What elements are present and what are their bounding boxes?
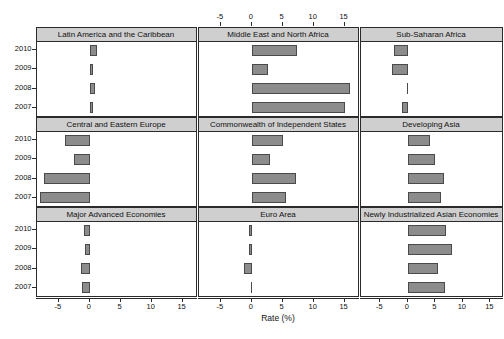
x-tick-label: 15 (333, 303, 355, 311)
x-tick-label: 15 (171, 303, 193, 311)
x-tick-mark (313, 22, 314, 26)
panel-title: Major Advanced Economies (37, 208, 196, 222)
bar-2010 (252, 135, 283, 146)
x-tick-label: 0 (240, 303, 262, 311)
y-tick-label-2007: 2007 (6, 283, 32, 291)
x-axis-title: Rate (%) (198, 313, 359, 323)
bar-2007 (402, 102, 408, 113)
y-tick-label-2008: 2008 (6, 264, 32, 272)
x-tick-mark (151, 298, 152, 302)
x-tick-mark (344, 22, 345, 26)
y-tick-mark (32, 248, 36, 249)
x-tick-label: 15 (333, 13, 355, 21)
x-tick-label: -5 (209, 13, 231, 21)
x-tick-label: 10 (302, 303, 324, 311)
bar-2009 (74, 154, 89, 165)
panel-plot-area (37, 221, 196, 296)
bar-2007 (251, 282, 252, 293)
bar-2009 (252, 64, 268, 75)
y-tick-label-2008: 2008 (6, 84, 32, 92)
bar-2009 (249, 244, 252, 255)
bar-2008 (81, 263, 90, 274)
x-tick-mark (344, 298, 345, 302)
y-tick-label-2009: 2009 (6, 64, 32, 72)
panel-title: Latin America and the Caribbean (37, 28, 196, 42)
x-tick-label: -5 (209, 303, 231, 311)
panel-developing-asia: Developing Asia (360, 117, 503, 207)
panel-title: Developing Asia (361, 118, 502, 132)
y-tick-label-2010: 2010 (6, 45, 32, 53)
y-tick-label-2010: 2010 (6, 225, 32, 233)
bar-2009 (408, 244, 452, 255)
x-tick-mark (220, 22, 221, 26)
x-tick-mark (58, 298, 59, 302)
y-tick-label-2009: 2009 (6, 154, 32, 162)
x-tick-mark (462, 298, 463, 302)
x-tick-mark (313, 298, 314, 302)
x-tick-label: 0 (396, 303, 418, 311)
bar-2008 (252, 83, 350, 94)
bar-2007 (252, 192, 287, 203)
x-tick-label: -5 (47, 303, 69, 311)
x-tick-label: 5 (271, 303, 293, 311)
x-tick-label: 0 (240, 13, 262, 21)
bar-2008 (90, 83, 96, 94)
y-tick-label-2007: 2007 (6, 193, 32, 201)
x-tick-mark (220, 298, 221, 302)
panel-plot-area (199, 221, 358, 296)
x-tick-label: 10 (140, 303, 162, 311)
y-tick-label-2010: 2010 (6, 135, 32, 143)
y-tick-label-2008: 2008 (6, 174, 32, 182)
y-tick-label-2009: 2009 (6, 244, 32, 252)
y-tick-mark (32, 158, 36, 159)
bar-2009 (392, 64, 407, 75)
bar-2007 (252, 102, 346, 113)
panel-plot-area (37, 131, 196, 206)
y-tick-mark (32, 268, 36, 269)
x-tick-label: 15 (478, 303, 500, 311)
panel-middle-east-and-north-africa: Middle East and North Africa (198, 27, 359, 117)
bar-2010 (394, 45, 408, 56)
y-tick-mark (32, 229, 36, 230)
y-tick-label-2007: 2007 (6, 103, 32, 111)
x-tick-label: 5 (109, 303, 131, 311)
panel-title: Central and Eastern Europe (37, 118, 196, 132)
bar-2007 (40, 192, 90, 203)
bar-2009 (252, 154, 271, 165)
bar-2007 (82, 282, 89, 293)
x-tick-mark (120, 298, 121, 302)
y-tick-mark (32, 287, 36, 288)
x-tick-mark (407, 298, 408, 302)
bar-2010 (408, 225, 447, 236)
x-axis-line (360, 298, 503, 299)
x-tick-mark (251, 298, 252, 302)
bar-2010 (84, 225, 90, 236)
x-tick-mark (251, 22, 252, 26)
bar-2008 (408, 173, 444, 184)
x-tick-mark (282, 298, 283, 302)
panel-latin-america-and-the-caribbean: Latin America and the Caribbean (36, 27, 197, 117)
panel-plot-area (199, 131, 358, 206)
panel-title: Newly Industrialized Asian Economies (361, 208, 502, 222)
panel-plot-area (361, 221, 502, 296)
bar-2010 (65, 135, 90, 146)
bar-2010 (90, 45, 97, 56)
x-tick-mark (182, 298, 183, 302)
panel-title: Middle East and North Africa (199, 28, 358, 42)
y-tick-mark (32, 68, 36, 69)
bar-2007 (90, 102, 94, 113)
x-tick-mark (489, 298, 490, 302)
y-tick-mark (32, 88, 36, 89)
bar-2010 (408, 135, 430, 146)
panel-central-and-eastern-europe: Central and Eastern Europe (36, 117, 197, 207)
panel-commonwealth-of-independent-states: Commonwealth of Independent States (198, 117, 359, 207)
panel-title: Euro Area (199, 208, 358, 222)
panel-major-advanced-economies: Major Advanced Economies (36, 207, 197, 297)
x-tick-mark (282, 22, 283, 26)
x-axis-line (36, 298, 197, 299)
panel-newly-industrialized-asian-economies: Newly Industrialized Asian Economies (360, 207, 503, 297)
panel-euro-area: Euro Area (198, 207, 359, 297)
panel-title: Sub-Saharan Africa (361, 28, 502, 42)
bar-2007 (408, 192, 441, 203)
bar-2008 (252, 173, 296, 184)
